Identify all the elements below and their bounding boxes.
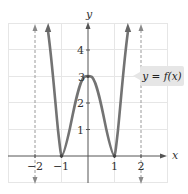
- arrow-right-icon: [160, 154, 167, 159]
- callout-label: y = f(x): [141, 70, 181, 82]
- x-axis-label: x: [172, 149, 179, 162]
- x-tick-label: 2: [138, 160, 145, 173]
- arrow-up-icon: [33, 24, 38, 31]
- y-tick-label: 3: [78, 71, 85, 84]
- arrow-up-icon: [139, 24, 144, 31]
- x-tick-label: −2: [27, 160, 43, 173]
- min-point: [113, 154, 117, 158]
- arrow-up-icon: [125, 23, 131, 32]
- y-tick-label: 1: [77, 124, 84, 137]
- function-callout: y = f(x): [133, 66, 184, 86]
- max-point: [86, 75, 89, 78]
- x-tick-label: 1: [111, 160, 118, 173]
- arrow-up-icon: [45, 23, 51, 32]
- function-graph: −2 −1 1 2 1 2 3 4 x y y = f(x): [0, 0, 188, 194]
- y-tick-label: 2: [77, 97, 84, 110]
- min-point: [60, 154, 64, 158]
- x-tick-label: −1: [53, 160, 69, 173]
- y-tick-label: 4: [77, 44, 84, 57]
- y-axis-label: y: [85, 8, 93, 21]
